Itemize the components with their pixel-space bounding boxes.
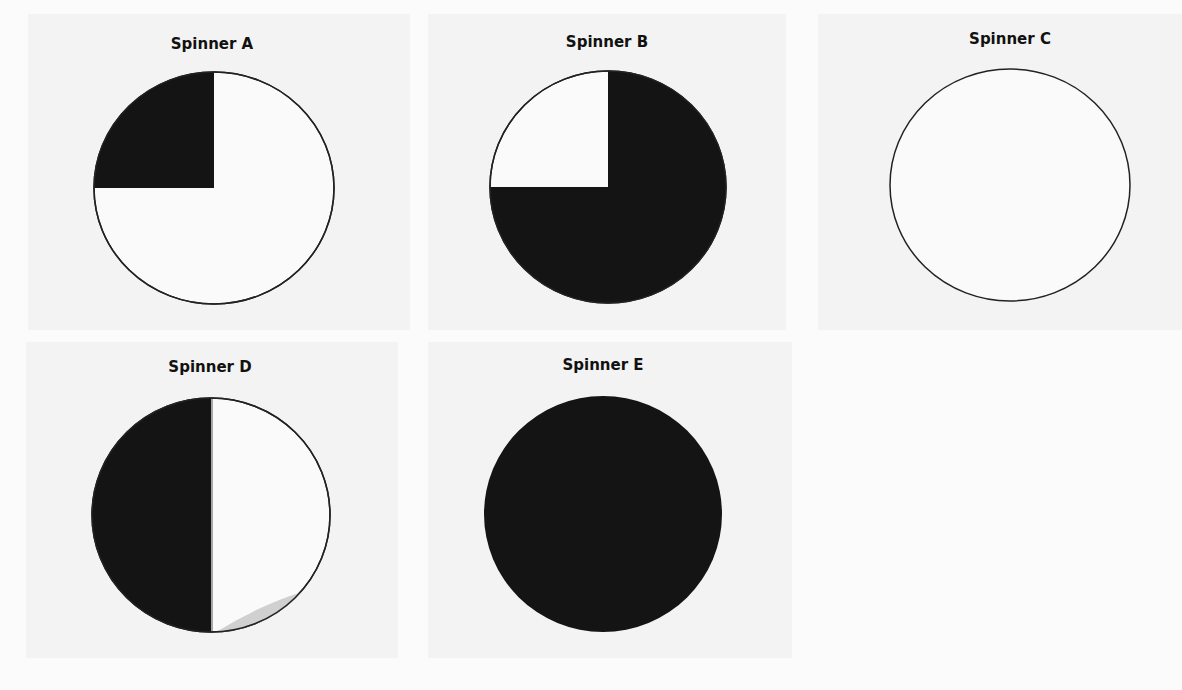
spinner-a	[94, 72, 334, 304]
spinners-canvas	[0, 0, 1182, 690]
spinner-c	[890, 69, 1130, 301]
spinner-a-shaded-sector	[94, 72, 214, 188]
spinner-e	[484, 396, 722, 632]
spinner-d	[92, 398, 330, 632]
spinner-d-shaded-half	[92, 398, 211, 632]
spinner-b	[490, 71, 726, 303]
